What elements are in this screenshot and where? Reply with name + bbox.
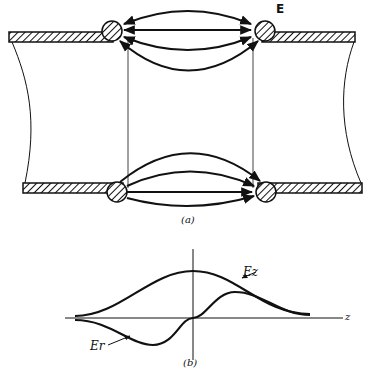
caption-b: (b) bbox=[183, 357, 197, 368]
er-pointer bbox=[108, 336, 130, 345]
diagram-canvas bbox=[0, 0, 369, 383]
z-axis-label: z bbox=[345, 311, 350, 322]
right-break-line bbox=[344, 42, 361, 183]
bottom-field-lines bbox=[120, 153, 260, 206]
field-plot-part-b bbox=[65, 249, 343, 360]
caption-a: (a) bbox=[181, 214, 195, 225]
top-left-conductor bbox=[9, 32, 113, 42]
er-label: Er bbox=[90, 339, 105, 353]
top-right-lip bbox=[255, 21, 275, 41]
top-right-conductor bbox=[262, 32, 355, 42]
bottom-right-lip bbox=[256, 182, 276, 202]
top-left-lip bbox=[102, 21, 122, 41]
ez-label: Ez bbox=[243, 265, 258, 279]
field-label-e: E bbox=[276, 2, 284, 16]
waveguide-part-a bbox=[9, 11, 362, 206]
bottom-left-lip bbox=[107, 182, 127, 202]
top-field-lines bbox=[120, 11, 258, 71]
left-break-line bbox=[12, 42, 31, 183]
